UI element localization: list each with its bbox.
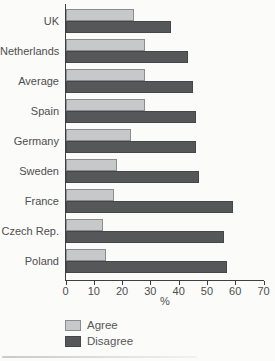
disagree-bar (66, 171, 199, 183)
agree-swatch (65, 320, 81, 331)
agree-bar (66, 219, 103, 231)
row-label: France (0, 189, 59, 213)
agree-bar (66, 69, 145, 81)
disagree-bar (66, 21, 171, 33)
disagree-bar (66, 81, 193, 93)
x-axis-line (65, 280, 264, 281)
legend: Agree Disagree (65, 317, 133, 349)
tick-label: 0 (62, 285, 68, 297)
disagree-bar (66, 201, 233, 213)
row-label: Sweden (0, 159, 59, 183)
legend-item-disagree: Disagree (65, 333, 133, 349)
row-label: Czech Rep. (0, 219, 59, 243)
disagree-swatch (65, 336, 81, 347)
row-label: Poland (0, 249, 59, 273)
agree-bar (66, 249, 106, 261)
row-label: Spain (0, 99, 59, 123)
agree-bar (66, 9, 134, 21)
agree-bar (66, 129, 131, 141)
legend-label-agree: Agree (87, 317, 118, 333)
tick-label: 20 (116, 285, 128, 297)
tick-label: 50 (201, 285, 213, 297)
agree-bar (66, 159, 117, 171)
tick-label: 70 (257, 285, 269, 297)
disagree-bar (66, 111, 196, 123)
x-axis-title: % (155, 295, 175, 307)
agree-bar (66, 99, 145, 111)
disagree-bar (66, 51, 188, 63)
y-axis-line (65, 4, 66, 281)
row-label: Average (0, 69, 59, 93)
disagree-bar (66, 141, 196, 153)
legend-item-agree: Agree (65, 317, 133, 333)
disagree-bar (66, 261, 227, 273)
tick-label: 10 (88, 285, 100, 297)
page-artifact-line (2, 356, 197, 358)
legend-label-disagree: Disagree (87, 333, 133, 349)
disagree-bar (66, 231, 224, 243)
agree-bar (66, 39, 145, 51)
bar-chart-figure: UKNetherlandsAverageSpainGermanySwedenFr… (0, 0, 275, 361)
row-label: Netherlands (0, 39, 59, 63)
tick-label: 60 (229, 285, 241, 297)
row-label: Germany (0, 129, 59, 153)
agree-bar (66, 189, 114, 201)
row-label: UK (0, 9, 59, 33)
